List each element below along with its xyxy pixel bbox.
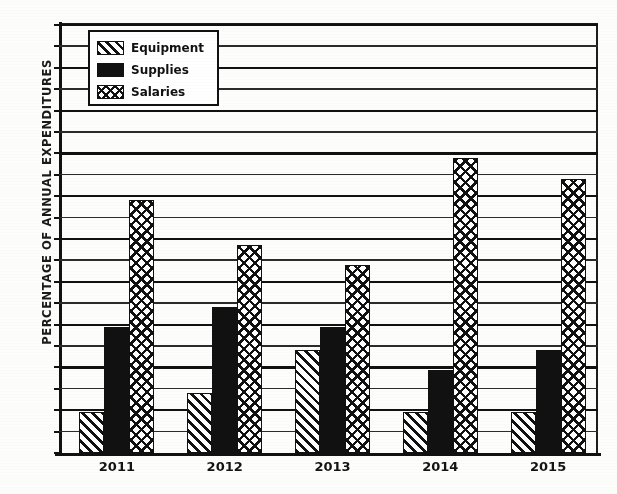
bar-equipment-2013 [295,350,320,453]
y-axis-tick-mark [54,152,59,154]
y-axis-tick-mark [54,174,59,176]
y-axis-tick-mark [54,45,59,47]
legend-item-supplies: Supplies [97,59,217,81]
legend-item-equipment: Equipment [97,37,217,59]
y-axis-tick-mark [54,131,59,133]
y-axis-tick-mark [54,388,59,390]
bar-supplies-2012 [212,307,237,453]
y-axis-tick-mark [54,302,59,304]
bar-supplies-2013 [320,327,345,453]
y-axis-tick-mark [54,110,59,112]
bar-group-2015 [511,25,586,453]
bar-equipment-2011 [79,412,104,453]
bar-salaries-2011 [129,200,154,453]
bar-supplies-2015 [536,350,561,453]
y-axis-title: PERCENTAGE OF ANNUAL EXPENDITURES [40,52,54,352]
x-axis-tick-label-2015: 2015 [508,459,588,474]
x-axis-tick-label-2014: 2014 [400,459,480,474]
y-axis-tick-mark [54,366,59,368]
bar-salaries-2013 [345,265,370,453]
y-axis-tick-mark [54,281,59,283]
y-axis-tick-mark [54,238,59,240]
x-axis-tick-label-2012: 2012 [185,459,265,474]
bar-salaries-2015 [561,179,586,453]
y-axis-tick-mark [54,24,59,26]
bar-salaries-2014 [453,158,478,453]
bar-equipment-2015 [511,412,536,453]
y-axis-tick-mark [54,217,59,219]
x-axis-line [55,453,601,456]
x-axis-tick-label-2011: 2011 [77,459,157,474]
y-axis-tick-mark [54,345,59,347]
legend-swatch-salaries-icon [97,85,124,99]
chart-page: PERCENTAGE OF ANNUAL EXPENDITURES 051015… [0,0,617,494]
legend-label-salaries: Salaries [131,85,185,99]
legend: Equipment Supplies Salaries [88,30,219,106]
y-axis-tick-mark [54,431,59,433]
y-axis-tick-mark [54,324,59,326]
y-axis-tick-mark [54,88,59,90]
bar-equipment-2012 [187,393,212,453]
bar-supplies-2014 [428,370,453,453]
legend-label-supplies: Supplies [131,63,189,77]
bar-supplies-2011 [104,327,129,453]
y-axis-tick-mark [54,195,59,197]
bar-salaries-2012 [237,245,262,453]
bar-group-2013 [295,25,370,453]
y-axis-tick-mark [54,452,59,454]
bar-equipment-2014 [403,412,428,453]
legend-swatch-supplies-icon [97,63,124,77]
y-axis-tick-mark [54,409,59,411]
x-axis-tick-label-2013: 2013 [293,459,373,474]
legend-label-equipment: Equipment [131,41,204,55]
y-axis-tick-mark [54,67,59,69]
bar-group-2014 [403,25,478,453]
legend-item-salaries: Salaries [97,81,217,103]
y-axis-tick-mark [54,259,59,261]
legend-swatch-equipment-icon [97,41,124,55]
